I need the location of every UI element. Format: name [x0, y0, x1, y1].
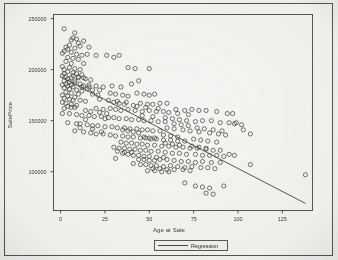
scatter-point	[103, 125, 107, 129]
scatter-point	[135, 142, 139, 146]
scatter-point	[215, 140, 219, 144]
scatter-point	[60, 111, 64, 115]
scatter-point	[85, 52, 89, 56]
scatter-point	[112, 145, 116, 149]
scatter-point	[87, 113, 91, 117]
x-tick-label: 0	[49, 216, 73, 222]
scatter-point	[98, 110, 102, 114]
scatter-point	[167, 110, 171, 114]
scatter-point	[74, 112, 78, 116]
scatter-point	[105, 53, 109, 57]
scatter-point	[211, 192, 215, 196]
scatter-point	[113, 92, 117, 96]
scatter-point	[232, 153, 236, 157]
scatter-point	[220, 129, 224, 133]
y-tick-label: 200000	[17, 67, 47, 73]
scatter-point	[101, 107, 105, 111]
scatter-point	[142, 92, 146, 96]
scatter-point	[113, 134, 117, 138]
scatter-point	[199, 166, 203, 170]
scatter-plot-figure: SalePrice Age at Sale 100000150000200000…	[0, 0, 338, 260]
scatter-point	[222, 184, 226, 188]
scatter-point	[144, 162, 148, 166]
scatter-point	[215, 109, 219, 113]
scatter-point	[137, 153, 141, 157]
scatter-point	[131, 135, 135, 139]
scatter-point	[177, 118, 181, 122]
scatter-point	[69, 50, 73, 54]
scatter-point	[179, 123, 183, 127]
scatter-point	[105, 111, 109, 115]
scatter-point	[119, 85, 123, 89]
scatter-point	[177, 143, 181, 147]
scatter-point	[179, 159, 183, 163]
scatter-point	[135, 127, 139, 131]
scatter-point	[165, 126, 169, 130]
scatter-point	[129, 118, 133, 122]
scatter-point	[154, 163, 158, 167]
scatter-point	[140, 109, 144, 113]
scatter-point	[131, 161, 135, 165]
scatter-point	[172, 158, 176, 162]
scatter-point	[186, 112, 190, 116]
scatter-point	[163, 120, 167, 124]
x-tick-label: 125	[270, 216, 294, 222]
scatter-point	[101, 85, 105, 89]
scatter-point	[113, 156, 117, 160]
scatter-point	[147, 108, 151, 112]
scatter-point	[223, 133, 227, 137]
legend[interactable]: Regression	[154, 240, 228, 251]
scatter-point	[74, 88, 78, 92]
scatter-point	[117, 117, 121, 121]
scatter-point	[200, 153, 204, 157]
scatter-point	[87, 45, 91, 49]
scatter-point	[165, 157, 169, 161]
scatter-point	[209, 119, 213, 123]
scatter-point	[119, 140, 123, 144]
scatter-point	[156, 120, 160, 124]
scatter-point	[181, 128, 185, 132]
x-axis-title: Age at Sale	[121, 227, 217, 233]
scatter-point	[76, 57, 80, 61]
scatter-point	[176, 111, 180, 115]
scatter-point	[110, 125, 114, 129]
scatter-point	[74, 52, 78, 56]
scatter-point	[161, 133, 165, 137]
scatter-point	[231, 111, 235, 115]
scatter-point	[117, 53, 121, 57]
scatter-point	[158, 101, 162, 105]
legend-label: Regression	[191, 243, 218, 249]
scatter-point	[225, 111, 229, 115]
scatter-point	[98, 88, 102, 92]
scatter-point	[145, 169, 149, 173]
scatter-point	[200, 119, 204, 123]
scatter-point	[137, 79, 141, 83]
scatter-point	[190, 165, 194, 169]
scatter-point	[124, 117, 128, 121]
scatter-point	[138, 148, 142, 152]
scatter-point	[121, 93, 125, 97]
scatter-point	[147, 67, 151, 71]
scatter-point	[92, 114, 96, 118]
scatter-point	[90, 88, 94, 92]
scatter-point	[168, 138, 172, 142]
scatter-point	[108, 91, 112, 95]
scatter-point	[135, 91, 139, 95]
scatter-point	[83, 108, 87, 112]
scatter-point	[160, 144, 164, 148]
scatter-point	[145, 143, 149, 147]
scatter-point	[110, 84, 114, 88]
scatter-point	[197, 130, 201, 134]
scatter-point	[153, 143, 157, 147]
scatter-point	[73, 31, 77, 35]
scatter-point	[168, 163, 172, 167]
scatter-point	[163, 150, 167, 154]
scatter-point	[133, 147, 137, 151]
scatter-point	[140, 142, 144, 146]
scatter-point	[190, 107, 194, 111]
scatter-point	[124, 141, 128, 145]
scatter-point	[129, 141, 133, 145]
scatter-point	[82, 39, 86, 43]
scatter-point	[227, 121, 231, 125]
scatter-point	[188, 169, 192, 173]
